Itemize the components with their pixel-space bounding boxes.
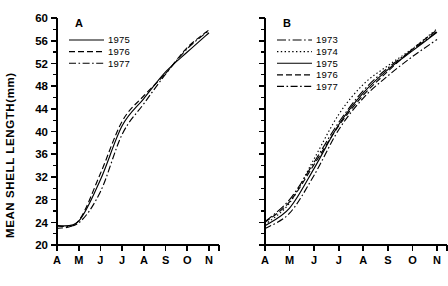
x-tick-label-B-4: J — [336, 254, 342, 266]
panel-letter-B: B — [283, 17, 291, 29]
chart-svg: MEAN SHELL LENGTH(mm)2024283236404448525… — [0, 0, 448, 286]
x-tick-label-A-5: A — [140, 254, 148, 266]
figure-container: MEAN SHELL LENGTH(mm)2024283236404448525… — [0, 0, 448, 286]
legend-label-A-1976: 1976 — [108, 46, 130, 57]
x-tick-label-B-3: J — [311, 254, 317, 266]
x-tick-label-B-6: S — [384, 254, 391, 266]
x-tick-label-A-8: N — [205, 254, 213, 266]
x-tick-label-B-1: A — [261, 254, 269, 266]
legend-label-B-1975: 1975 — [316, 58, 338, 69]
data-curve-A-1975 — [57, 33, 209, 226]
legend-label-A-1977: 1977 — [108, 58, 130, 69]
x-tick-label-A-7: O — [183, 254, 192, 266]
data-curve-B-1977 — [265, 40, 437, 229]
y-tick-label-36: 36 — [35, 148, 48, 160]
x-tick-label-A-4: J — [119, 254, 125, 266]
y-tick-label-56: 56 — [35, 35, 48, 47]
legend-label-B-1977: 1977 — [316, 81, 338, 92]
data-curve-B-1973 — [265, 32, 437, 222]
y-tick-label-44: 44 — [35, 103, 48, 115]
y-tick-label-48: 48 — [35, 80, 48, 92]
y-tick-label-24: 24 — [35, 217, 48, 229]
y-tick-label-52: 52 — [35, 58, 48, 70]
x-tick-label-B-5: A — [359, 254, 367, 266]
x-tick-label-B-2: M — [285, 254, 294, 266]
legend-label-B-1973: 1973 — [316, 34, 338, 45]
data-curve-B-1976 — [265, 30, 437, 222]
panel-letter-A: A — [75, 17, 83, 29]
x-tick-label-B-8: N — [433, 254, 441, 266]
panel-b: AMJJASONB19731974197519761977 — [259, 17, 447, 266]
y-tick-label-40: 40 — [35, 126, 48, 138]
legend-label-B-1976: 1976 — [316, 69, 338, 80]
y-tick-label-20: 20 — [35, 239, 48, 251]
x-tick-label-A-3: J — [97, 254, 103, 266]
x-tick-label-A-6: S — [162, 254, 169, 266]
legend-label-A-1975: 1975 — [108, 34, 130, 45]
data-curve-B-1975 — [265, 32, 437, 226]
panel-a: 2024283236404448525660AMJJASONA197519761… — [35, 12, 219, 266]
legend-label-B-1974: 1974 — [316, 46, 338, 57]
data-curve-A-1977 — [57, 30, 209, 226]
x-tick-label-A-1: A — [53, 254, 61, 266]
y-axis-title: MEAN SHELL LENGTH(mm) — [4, 72, 16, 238]
y-tick-label-28: 28 — [35, 194, 48, 206]
data-curve-A-1976 — [57, 30, 209, 229]
x-tick-label-A-2: M — [74, 254, 83, 266]
x-tick-label-B-7: O — [408, 254, 417, 266]
y-tick-label-60: 60 — [35, 12, 48, 24]
y-tick-label-32: 32 — [35, 171, 48, 183]
